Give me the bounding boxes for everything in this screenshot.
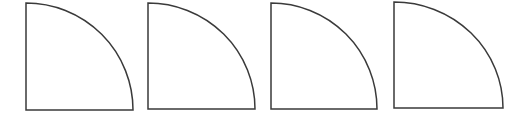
quarter-circle-1 <box>26 3 133 110</box>
quarter-circle-2 <box>148 3 255 109</box>
quarter-circle-4 <box>394 2 503 108</box>
quarter-circle-3 <box>271 3 377 109</box>
diagram-canvas <box>0 0 530 115</box>
